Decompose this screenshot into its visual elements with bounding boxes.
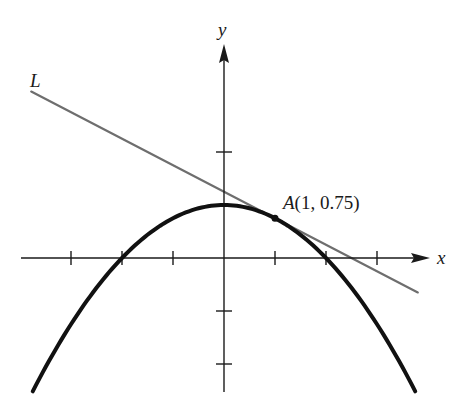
x-axis-label: x [436, 247, 446, 268]
function-graph: x y L A(1, 0.75) [0, 0, 466, 407]
y-axis-label: y [216, 19, 227, 40]
point-A-marker [272, 215, 279, 222]
point-A-label: A(1, 0.75) [281, 192, 360, 214]
point-A-name: A [281, 192, 295, 213]
point-A-coords: (1, 0.75) [295, 192, 360, 214]
x-axis [21, 251, 430, 265]
line-L-label: L [29, 70, 41, 91]
y-axis [216, 44, 232, 392]
